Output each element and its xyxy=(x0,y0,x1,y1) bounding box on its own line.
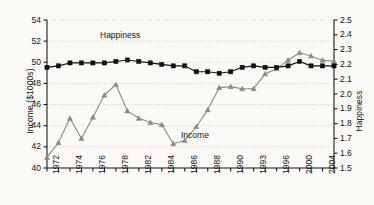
y-axis-left-tick: 54 xyxy=(19,15,41,25)
y-axis-right-tick: 2.2 xyxy=(340,59,362,69)
y-axis-right-tick: 1.6 xyxy=(340,148,362,158)
y-axis-left-tick: 48 xyxy=(19,78,41,88)
y-axis-right-tick: 2.0 xyxy=(340,89,362,99)
x-axis-tick: 2000 xyxy=(304,155,314,174)
y-axis-right-tick: 2.4 xyxy=(340,29,362,39)
y-axis-right-tick: 2.5 xyxy=(340,15,362,25)
y-axis-left-tick: 52 xyxy=(19,36,41,46)
gridlines xyxy=(47,20,334,168)
y-axis-right-tick: 1.9 xyxy=(340,103,362,113)
x-axis-tick: 1974 xyxy=(74,155,84,174)
plot-area xyxy=(0,0,374,205)
x-axis-tick: 2004 xyxy=(327,155,337,174)
x-axis-tick: 1982 xyxy=(143,155,153,174)
x-axis-tick: 1986 xyxy=(189,155,199,174)
x-axis-tick: 1972 xyxy=(51,155,61,174)
x-axis-tick: 1976 xyxy=(97,155,107,174)
y-axis-right-tick: 2.3 xyxy=(340,44,362,54)
series-happiness-line xyxy=(45,58,336,76)
y-axis-left-tick: 40 xyxy=(19,163,41,173)
y-axis-right-tick: 1.7 xyxy=(340,133,362,143)
chart-figure: Income ($1000s) Happiness 40424446485052… xyxy=(0,0,374,205)
y-axis-left-tick: 42 xyxy=(19,141,41,151)
x-axis-tick: 1984 xyxy=(166,155,176,174)
x-axis-tick: 1990 xyxy=(235,155,245,174)
x-axis-tick: 1996 xyxy=(281,155,291,174)
series-label-happiness: Happiness xyxy=(100,30,140,40)
axis-frame xyxy=(47,20,334,168)
y-axis-right-tick: 1.5 xyxy=(340,163,362,173)
y-axis-left-tick: 50 xyxy=(19,57,41,67)
series-label-income: Income xyxy=(181,130,209,140)
y-axis-left-tick: 46 xyxy=(19,99,41,109)
x-axis-tick: 1993 xyxy=(258,155,268,174)
x-axis-tick: 1988 xyxy=(212,155,222,174)
y-axis-right-tick: 1.8 xyxy=(340,118,362,128)
y-axis-right-tick: 2.1 xyxy=(340,74,362,84)
y-axis-left-tick: 44 xyxy=(19,120,41,130)
x-axis-tick: 1978 xyxy=(120,155,130,174)
